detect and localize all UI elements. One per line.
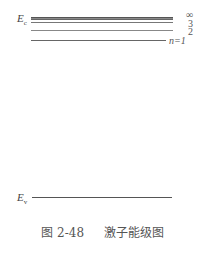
ev-main: E — [17, 191, 24, 203]
valence-band-label: Ev — [17, 192, 27, 206]
valence-band-edge-line — [32, 197, 172, 198]
level-3-line — [31, 22, 173, 23]
level-n1-label: n=1 — [169, 36, 186, 46]
figure-title: 激子能级图 — [104, 223, 164, 240]
ec-sub: c — [24, 19, 27, 27]
level-high-line — [31, 19, 173, 20]
ec-main: E — [17, 12, 24, 24]
level-2-line — [31, 30, 173, 31]
level-1-line — [31, 40, 166, 41]
figure-caption: 图 2-48 激子能级图 — [0, 223, 205, 240]
figure-number: 图 2-48 — [41, 223, 84, 240]
conduction-band-label: Ec — [17, 13, 27, 27]
level-2-label: 2 — [188, 27, 193, 37]
ev-sub: v — [24, 198, 28, 206]
